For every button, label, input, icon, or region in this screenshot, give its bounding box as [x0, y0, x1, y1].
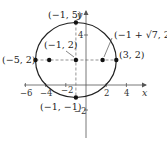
label-focus: (−1 + √7, 2): [114, 29, 167, 40]
point-bottom: [74, 95, 78, 99]
x-axis-label: x: [142, 87, 148, 98]
point-right: [114, 58, 118, 62]
xtick-m2: −2: [61, 85, 74, 95]
point-top: [74, 20, 78, 24]
label-right: (3, 2): [119, 49, 145, 60]
xtick-m4: −4: [40, 88, 53, 98]
ytick-4: 4: [78, 30, 83, 40]
y-axis: [84, 10, 89, 138]
xtick-4: 4: [124, 88, 129, 98]
point-focus-left: [47, 58, 51, 62]
point-center: [74, 58, 78, 62]
label-left: (−5, 2): [2, 54, 36, 65]
ellipse-graph: (−1, 5) y (−1, 2) (−5, 2) (3, 2) (−1 + √…: [0, 0, 167, 143]
y-axis-label: y: [76, 9, 83, 20]
point-focus-right: [100, 58, 104, 62]
xtick-2: 2: [104, 88, 109, 98]
x-axis: [24, 83, 147, 88]
xtick-m6: −6: [20, 88, 33, 98]
label-center: (−1, 2): [44, 39, 78, 50]
ytick-m2: −2: [74, 106, 87, 116]
